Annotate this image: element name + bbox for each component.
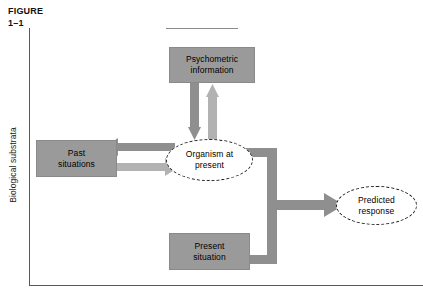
node-present-line-1: Present (193, 241, 226, 252)
node-present-situation[interactable]: Present situation (169, 233, 250, 270)
node-organism-at-present[interactable]: Organism at present (166, 139, 253, 181)
node-predicted-response[interactable]: Predicted response (336, 186, 417, 225)
node-psychometric-line-2: information (186, 65, 238, 76)
node-present-line-2: situation (193, 252, 226, 263)
edge-psychometric-to-organism (188, 83, 201, 140)
node-organism-line-1: Organism at (186, 149, 233, 160)
node-organism-line-2: present (186, 160, 233, 171)
node-predicted-line-2: response (358, 206, 395, 217)
node-predicted-line-1: Predicted (358, 195, 395, 206)
node-past-situations[interactable]: Past situations (36, 140, 117, 177)
node-past-line-2: situations (58, 159, 95, 170)
node-psychometric-information[interactable]: Psychometric information (169, 47, 255, 83)
node-psychometric-line-1: Psychometric (186, 54, 238, 65)
edge-organism-to-psychometric (206, 84, 219, 141)
node-past-line-1: Past (58, 148, 95, 159)
edge-organism-to-predicted (243, 148, 344, 264)
